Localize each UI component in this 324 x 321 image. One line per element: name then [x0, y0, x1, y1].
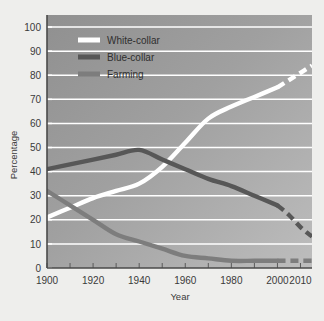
y-tick-label: 90 — [30, 46, 42, 57]
legend-label-farming: Farming — [107, 69, 144, 80]
legend-label-blue-collar: Blue-collar — [107, 52, 155, 63]
y-tick-label: 0 — [35, 263, 41, 274]
plot-area-background — [47, 15, 312, 268]
legend-label-white-collar: White-collar — [107, 35, 160, 46]
y-tick-label: 80 — [30, 70, 42, 81]
y-tick-label: 10 — [30, 239, 42, 250]
x-tick-label: 1920 — [82, 275, 105, 286]
y-tick-label: 20 — [30, 214, 42, 225]
x-tick-label: 2010 — [289, 275, 312, 286]
x-tick-label: 2000 — [266, 275, 289, 286]
x-tick-label: 1940 — [128, 275, 151, 286]
x-tick-label: 1980 — [220, 275, 243, 286]
y-tick-label: 50 — [30, 142, 42, 153]
chart-container: 0102030405060708090100 19001920194019601… — [0, 0, 324, 321]
y-tick-label: 100 — [24, 22, 41, 33]
y-axis-title: Percentage — [8, 131, 19, 180]
y-tick-label: 40 — [30, 166, 42, 177]
x-axis-title: Year — [170, 291, 189, 302]
x-tick-label: 1900 — [36, 275, 59, 286]
y-tick-label: 60 — [30, 118, 42, 129]
x-tick-label: 1960 — [174, 275, 197, 286]
occupation-trends-line-chart: 0102030405060708090100 19001920194019601… — [0, 0, 324, 321]
y-tick-label: 30 — [30, 190, 42, 201]
y-tick-label: 70 — [30, 94, 42, 105]
